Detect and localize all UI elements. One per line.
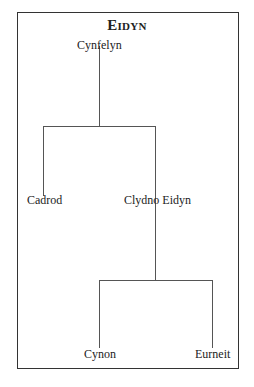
connector-cadrod <box>43 126 44 196</box>
node-cadrod: Cadrod <box>27 193 62 208</box>
node-cynfelyn: Cynfelyn <box>77 38 122 53</box>
node-eurneit: Eurneit <box>195 347 230 362</box>
node-clydno-eidyn: Clydno Eidyn <box>124 193 191 208</box>
diagram-title: Eidyn <box>0 17 254 34</box>
connector-eurneit <box>212 280 213 348</box>
diagram-frame <box>17 12 239 369</box>
connector-gen3-horizontal <box>99 280 212 281</box>
connector-cynfelyn-down <box>99 46 100 126</box>
node-cynon: Cynon <box>84 347 116 362</box>
connector-cynon <box>99 280 100 348</box>
connector-gen2-horizontal <box>43 126 156 127</box>
